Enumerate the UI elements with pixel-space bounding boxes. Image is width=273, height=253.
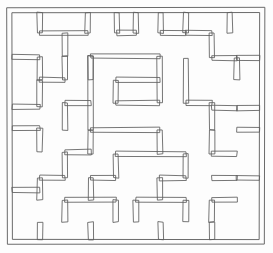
canvas-background — [0, 0, 273, 253]
maze-figure: Maze Hand-drawn rectangular maze rendere… — [0, 0, 273, 253]
maze-canvas — [0, 0, 273, 253]
